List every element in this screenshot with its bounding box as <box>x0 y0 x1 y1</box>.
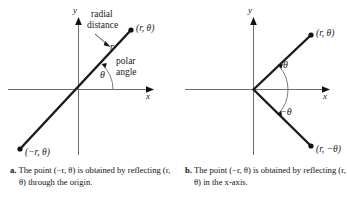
point-label-r-theta: (r, θ) <box>316 29 334 39</box>
point-dot-r-theta <box>308 32 313 37</box>
point-dot-r-theta <box>128 27 133 32</box>
panel-b: x y θ −θ (r, θ) (r, −θ) b. The point (−r… <box>174 0 347 200</box>
radial-distance-label-line2: distance <box>87 21 118 31</box>
caption-a-line1: The point (−r, θ) is obtained by <box>18 165 125 175</box>
panel-a: x y radial distance r polar angle θ (r, … <box>0 0 173 200</box>
ray-to-r-neg-theta <box>254 90 312 147</box>
point-label-r-neg-theta: (r, −θ) <box>316 145 341 155</box>
neg-theta-angle-symbol: −θ <box>280 107 292 117</box>
caption-a-marker: a. <box>10 165 16 175</box>
point-dot-neg-r-theta <box>17 146 22 151</box>
point-label-r-theta: (r, θ) <box>136 24 154 34</box>
y-axis-label: y <box>248 6 252 15</box>
panel-b-diagram <box>174 0 347 163</box>
radial-distance-label-line1: radial <box>91 10 113 20</box>
caption-b-marker: b. <box>185 165 192 175</box>
caption-a: a. The point (−r, θ) is obtained by refl… <box>10 165 179 188</box>
y-axis-label: y <box>73 6 77 15</box>
point-dot-r-neg-theta <box>308 143 313 148</box>
radial-distance-symbol: r <box>110 42 114 52</box>
point-label-neg-r-theta: (−r, θ) <box>25 148 50 158</box>
theta-angle-symbol: θ <box>100 70 105 80</box>
polar-coordinates-figure: x y radial distance r polar angle θ (r, … <box>0 0 347 200</box>
y-axis-arrowhead <box>75 17 82 25</box>
caption-b-line1: The point (−r, θ) is obtained by <box>194 165 301 175</box>
x-axis-label: x <box>146 92 150 101</box>
y-axis-arrowhead <box>250 17 257 25</box>
x-axis-label: x <box>323 92 327 101</box>
polar-angle-label-line2: angle <box>116 68 137 78</box>
theta-angle-symbol: θ <box>283 60 288 70</box>
caption-b: b. The point (−r, θ) is obtained by refl… <box>185 165 347 188</box>
polar-angle-label-line1: polar <box>116 57 136 67</box>
